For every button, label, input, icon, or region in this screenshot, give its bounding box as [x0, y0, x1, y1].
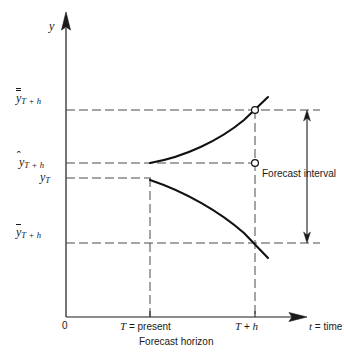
upper-confidence-band-curve [150, 97, 268, 163]
lower-bound-base: y [16, 225, 21, 239]
present-rest: = present [126, 321, 171, 332]
y-hat-glyph: ŷ [19, 156, 24, 168]
y-double-bar-glyph: y [16, 92, 21, 104]
x-tick-label-present: T = present [120, 321, 171, 332]
origin-label: 0 [62, 321, 68, 331]
horizon-var2: h [253, 320, 259, 332]
x-axis-rest: = time [312, 321, 342, 332]
lower-bound-label: yT + h [16, 226, 41, 240]
point-forecast-marker-icon [252, 160, 259, 167]
upper-bound-marker-icon [252, 107, 259, 114]
x-tick-label-horizon: T + h [235, 321, 258, 332]
x-axis-ticks-group [150, 311, 255, 317]
lower-bound-subscript: T + h [21, 230, 41, 240]
horizon-op: + [241, 321, 252, 332]
x-axis-label: t = time [309, 321, 342, 332]
y-axis-arrowhead [62, 12, 71, 30]
forecast-curves-group [150, 97, 268, 258]
axis-group [62, 12, 308, 322]
vertical-reference-lines-group [150, 110, 255, 317]
upper-bound-base: y [16, 91, 21, 105]
forecast-interval-figure: y yT + h ŷT + h yT yT + h Forecast inte… [0, 0, 344, 353]
point-forecast-label: ŷT + h [19, 156, 44, 170]
upper-bound-label: yT + h [16, 92, 41, 106]
point-forecast-subscript: T + h [24, 160, 44, 170]
last-observation-subscript: T [45, 175, 50, 185]
x-axis-arrowhead [289, 313, 307, 322]
forecast-interval-annotation: Forecast interval [262, 169, 336, 179]
y-axis-label: y [49, 20, 54, 32]
upper-bound-subscript: T + h [21, 96, 41, 106]
y-bar-glyph: y [16, 226, 21, 238]
point-forecast-base: y [19, 155, 24, 169]
last-observation-label: yT [40, 171, 50, 185]
forecast-horizon-caption: Forecast horizon [139, 337, 213, 347]
lower-confidence-band-curve [150, 180, 268, 258]
